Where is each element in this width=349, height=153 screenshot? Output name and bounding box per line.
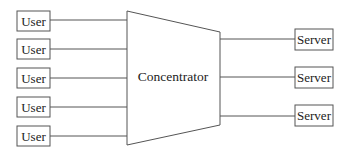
server-node: Server [220,105,333,126]
user-label: User [21,100,46,115]
user-node: User [17,126,127,146]
concentrator-label: Concentrator [138,69,209,84]
concentrator-node: Concentrator [127,11,220,145]
user-node: User [17,11,127,31]
user-node: User [17,39,127,59]
user-node: User [17,97,127,117]
concentrator-diagram: Concentrator User User User User User Se… [0,0,349,153]
server-label: Server [297,32,332,47]
server-node: Server [220,29,333,50]
server-label: Server [297,108,332,123]
user-label: User [21,14,46,29]
user-label: User [21,42,46,57]
server-node: Server [220,67,333,88]
user-label: User [21,71,46,86]
server-label: Server [297,70,332,85]
user-label: User [21,129,46,144]
user-node: User [17,68,127,88]
